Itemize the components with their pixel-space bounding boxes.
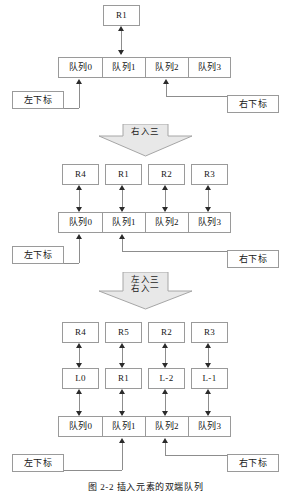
figure-caption: 图 2-2 插入元素的双端队列 [0,480,291,493]
register-box: R4 [62,164,99,185]
arrow-head-up-icon [162,343,168,348]
connector-line [165,443,166,455]
connector-line [166,96,227,97]
arrow-head-up-icon [119,343,125,348]
queue-cell: 队列0 [58,212,102,233]
register-box: R1 [105,164,142,185]
right-index-label: 右下标 [227,454,279,472]
register-box: R2 [148,164,185,185]
arrow-head-up-icon [119,185,125,190]
left-index-label: 左下标 [12,454,64,472]
arrow-head-up-icon [162,389,168,394]
register-box: R3 [191,164,228,185]
connector-line [64,470,122,471]
transition-block-arrow: 左入三 右入一 [95,272,196,310]
register-box: R4 [62,322,99,343]
left-index-label: 左下标 [12,246,64,264]
arrow-head-up-icon [76,185,82,190]
queue-cell: 队列1 [102,57,145,78]
connector-line [64,263,79,264]
connector-line [79,239,80,263]
queue-cell: 队列1 [102,212,145,233]
queue-cell: 队列1 [102,416,145,437]
transition-label-line2: 右入一 [95,283,196,293]
queue-cell: 队列2 [145,416,188,437]
queue-cell: 队列0 [58,57,102,78]
arrow-head-up-icon [118,26,124,31]
arrow-head-up-icon [119,438,125,443]
register-box: L-1 [191,368,228,389]
transition-block-arrow: 右入三 [95,124,196,157]
arrow-head-up-icon [119,234,125,239]
register-box: R1 [105,368,142,389]
register-box: R3 [191,322,228,343]
queue-cell: 队列3 [188,416,231,437]
register-box: R5 [105,322,142,343]
arrow-head-up-icon [163,79,169,84]
connector-line [122,251,227,252]
arrow-head-up-icon [205,389,211,394]
arrow-head-up-icon [162,185,168,190]
arrow-head-up-icon [76,79,82,84]
connector-line [64,108,79,109]
queue-cell: 队列3 [188,212,231,233]
register-box: L0 [62,368,99,389]
left-index-label: 左下标 [12,91,64,109]
arrow-head-up-icon [119,389,125,394]
register-box: L-2 [148,368,185,389]
queue-cell: 队列0 [58,416,102,437]
right-index-label: 右下标 [227,250,279,268]
queue-cell: 队列3 [188,57,231,78]
arrow-head-up-icon [76,343,82,348]
arrow-head-up-icon [205,185,211,190]
connector-line [122,443,123,470]
connector-line [166,84,167,96]
arrow-head-down-icon [118,50,124,55]
arrow-head-up-icon [76,389,82,394]
queue-cell: 队列2 [145,212,188,233]
right-index-label: 右下标 [227,95,279,113]
register-box: R1 [103,5,140,26]
transition-label: 右入三 [95,126,196,136]
register-box: R2 [148,322,185,343]
connector-line [79,84,80,108]
queue-cell: 队列2 [145,57,188,78]
connector-line [122,239,123,251]
connector-line [165,455,227,456]
arrow-head-up-icon [205,343,211,348]
arrow-head-up-icon [162,438,168,443]
arrow-head-up-icon [76,234,82,239]
